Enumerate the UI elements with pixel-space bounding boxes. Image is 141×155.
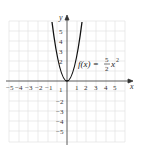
svg-text:1: 1 [75, 84, 79, 92]
svg-text:2: 2 [105, 65, 109, 73]
svg-text:1: 1 [59, 86, 63, 94]
svg-text:3: 3 [94, 84, 98, 92]
svg-text:x: x [110, 59, 115, 69]
svg-text:5: 5 [59, 28, 63, 36]
svg-text:4: 4 [59, 38, 63, 46]
svg-text:−4: −4 [56, 118, 64, 126]
svg-text:−3: −3 [56, 108, 64, 116]
svg-text:−2: −2 [56, 98, 64, 106]
x-axis-label: x [129, 82, 134, 91]
svg-text:4: 4 [104, 84, 108, 92]
svg-text:−3: −3 [25, 84, 33, 92]
svg-text:−5: −5 [56, 128, 64, 136]
svg-text:−5: −5 [6, 84, 14, 92]
svg-text:−1: −1 [45, 84, 53, 92]
y-axis-label: y [58, 13, 63, 22]
function-graph: x y −5−4 −3−2 −1 12 34 5 54 32 1 −2−3 −4… [0, 0, 141, 155]
svg-text:5: 5 [113, 84, 117, 92]
svg-text:f(x) =: f(x) = [78, 59, 99, 69]
svg-text:2: 2 [84, 84, 88, 92]
svg-text:3: 3 [59, 48, 63, 56]
svg-text:2: 2 [116, 57, 119, 63]
svg-text:−4: −4 [15, 84, 23, 92]
svg-text:−2: −2 [35, 84, 43, 92]
function-label: f(x) = 5 2 x 2 [78, 56, 119, 73]
svg-text:5: 5 [105, 56, 109, 64]
